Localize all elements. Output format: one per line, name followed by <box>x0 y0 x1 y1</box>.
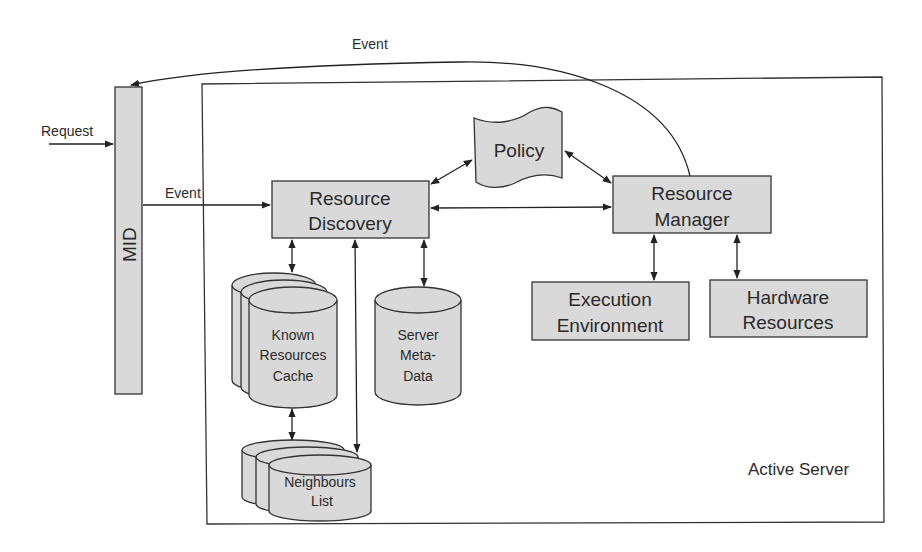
policy-manager-arrow <box>565 151 611 183</box>
mid-bar[interactable]: MID <box>115 87 142 394</box>
known-resources-cache-line2: Resources <box>260 347 327 363</box>
execution-environment-box[interactable]: Execution Environment <box>532 282 689 340</box>
discovery-neighbours-arrow <box>355 240 357 452</box>
resource-discovery-line2: Discovery <box>308 213 392 234</box>
resource-manager-line1: Resource <box>651 183 732 204</box>
neighbours-list-line1: Neighbours <box>284 474 356 490</box>
resource-discovery-line1: Resource <box>309 188 390 209</box>
resource-manager-box[interactable]: Resource Manager <box>613 176 771 233</box>
neighbours-list-stack[interactable]: Neighbours List <box>242 440 371 521</box>
policy-shape[interactable]: Policy <box>474 107 562 187</box>
server-meta-data-line2: Meta- <box>400 347 436 363</box>
hardware-resources-line2: Resources <box>743 312 834 333</box>
known-resources-cache-line3: Cache <box>273 368 314 384</box>
neighbours-list-line2: List <box>311 493 333 509</box>
known-resources-cache-line1: Known <box>272 327 315 343</box>
execution-environment-line2: Environment <box>557 315 664 336</box>
mid-label: MID <box>119 227 140 262</box>
event-arrow-top: Event <box>131 36 690 176</box>
active-server-label: Active Server <box>748 460 849 479</box>
execution-environment-line1: Execution <box>568 289 651 310</box>
request-label: Request <box>41 123 93 139</box>
resource-manager-line2: Manager <box>655 209 731 230</box>
server-meta-data-cylinder[interactable]: Server Meta- Data <box>375 287 461 405</box>
event-arrow-mid: Event <box>143 185 270 205</box>
discovery-policy-arrow <box>431 160 472 184</box>
server-meta-data-line1: Server <box>397 327 439 343</box>
discovery-manager-arrow <box>431 207 611 208</box>
event-top-label: Event <box>352 36 388 52</box>
server-meta-data-line3: Data <box>403 368 433 384</box>
event-mid-label: Event <box>165 185 201 201</box>
known-resources-cache-stack[interactable]: Known Resources Cache <box>232 273 337 408</box>
hardware-resources-box[interactable]: Hardware Resources <box>710 280 867 337</box>
hardware-resources-line1: Hardware <box>747 287 829 308</box>
active-server-diagram: Active Server Event MID Request Event Re… <box>0 0 922 552</box>
resource-discovery-box[interactable]: Resource Discovery <box>272 181 429 238</box>
policy-label: Policy <box>494 140 545 161</box>
request-arrow: Request <box>41 123 113 144</box>
